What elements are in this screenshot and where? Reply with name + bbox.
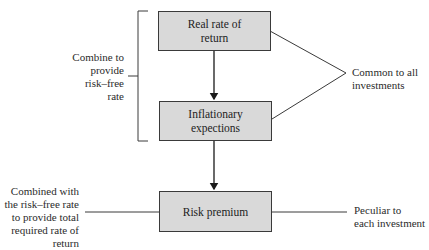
total-line5: return	[0, 237, 79, 250]
inflation-label-line2: expections	[188, 121, 242, 135]
peculiar-line2: each investment	[354, 217, 429, 230]
inflation-label-line1: Inflationary	[188, 107, 242, 121]
risk-free-bracket	[128, 11, 148, 141]
total-line4: required rate of	[0, 224, 79, 237]
real-rate-label-line2: return	[188, 31, 242, 45]
common-to-all-annotation: Common to all investments	[352, 66, 429, 92]
risk-free-line4: rate	[60, 90, 124, 103]
risk-premium-box: Risk premium	[159, 191, 272, 232]
total-line2: the risk–free rate	[0, 198, 79, 211]
inflationary-expectations-box: Inflationary expections	[159, 101, 272, 141]
risk-free-line3: risk–free	[60, 77, 124, 90]
total-required-rate-annotation: Combined with the risk–free rate to prov…	[0, 185, 79, 250]
risk-free-rate-annotation: Combine to provide risk–free rate	[60, 51, 124, 103]
common-line2: investments	[352, 79, 429, 92]
risk-free-line2: provide	[60, 64, 124, 77]
risk-free-line1: Combine to	[60, 51, 124, 64]
peculiar-line1: Peculiar to	[354, 204, 429, 217]
common-line1: Common to all	[352, 66, 429, 79]
diagram-canvas: Real rate of return Inflationary expecti…	[0, 0, 429, 250]
peculiar-annotation: Peculiar to each investment	[354, 204, 429, 230]
total-line3: to provide total	[0, 211, 79, 224]
real-rate-label-line1: Real rate of	[188, 17, 242, 31]
common-converging-lines	[270, 31, 346, 119]
real-rate-of-return-box: Real rate of return	[158, 11, 271, 51]
total-line1: Combined with	[0, 185, 79, 198]
risk-premium-label: Risk premium	[183, 205, 249, 219]
